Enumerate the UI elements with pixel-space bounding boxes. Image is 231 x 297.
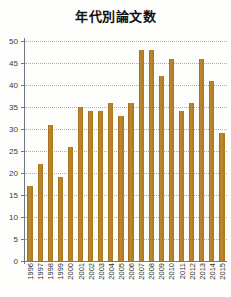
bar-slot[interactable]	[68, 41, 73, 261]
x-axis-tick-label: 2002	[86, 263, 95, 280]
x-axis-tick: 2011	[177, 262, 187, 296]
bar-slot[interactable]	[58, 41, 63, 261]
y-axis-tick-mark	[21, 217, 24, 218]
x-axis-tick-label: 2006	[127, 263, 136, 280]
bar-slot[interactable]	[48, 41, 53, 261]
y-axis-tick-label: 40	[9, 81, 18, 90]
x-axis-tick: 2015	[217, 262, 227, 296]
x-axis-tick-label: 2015	[217, 263, 226, 280]
bar[interactable]	[38, 164, 43, 261]
bar-slot[interactable]	[149, 41, 154, 261]
x-axis-tick-label: 2009	[157, 263, 166, 280]
chart-title: 年代別論文数	[0, 6, 231, 25]
bar[interactable]	[108, 103, 113, 261]
bar-slot[interactable]	[98, 41, 103, 261]
y-axis-tick-mark	[21, 195, 24, 196]
bar[interactable]	[78, 107, 83, 261]
y-axis-tick-label: 30	[9, 125, 18, 134]
x-axis-tick: 2002	[86, 262, 96, 296]
bar-slot[interactable]	[189, 41, 194, 261]
bar[interactable]	[98, 111, 103, 261]
y-axis-tick-label: 0	[14, 257, 18, 266]
y-axis-tick-label: 25	[9, 147, 18, 156]
bar-slot[interactable]	[199, 41, 204, 261]
x-axis-tick: 2009	[156, 262, 166, 296]
bar[interactable]	[199, 59, 204, 261]
bar[interactable]	[128, 103, 133, 261]
x-axis-tick: 2001	[76, 262, 86, 296]
bar-slot[interactable]	[169, 41, 174, 261]
x-axis-tick-label: 1998	[46, 263, 55, 280]
y-axis-tick-label: 35	[9, 103, 18, 112]
x-axis-tick-label: 2001	[76, 263, 85, 280]
bar[interactable]	[219, 133, 224, 261]
bar-slot[interactable]	[128, 41, 133, 261]
x-axis-tick: 1996	[25, 262, 35, 296]
bar-slot[interactable]	[219, 41, 224, 261]
y-axis-tick-labels: 05101520253035404550	[0, 41, 22, 261]
y-axis-tick-mark	[21, 151, 24, 152]
bar[interactable]	[48, 125, 53, 261]
bar[interactable]	[88, 111, 93, 261]
x-axis-tick-label: 1996	[26, 263, 35, 280]
x-axis-tick-label: 2014	[207, 263, 216, 280]
x-axis-tick-label: 2003	[96, 263, 105, 280]
y-axis-tick-label: 15	[9, 191, 18, 200]
x-axis-tick-label: 2013	[197, 263, 206, 280]
bar[interactable]	[169, 59, 174, 261]
x-axis-tick: 2012	[187, 262, 197, 296]
bar[interactable]	[179, 111, 184, 261]
bar[interactable]	[27, 186, 32, 261]
bar-slot[interactable]	[27, 41, 32, 261]
y-axis-tick-label: 5	[14, 235, 18, 244]
x-axis-tick-label: 2005	[116, 263, 125, 280]
y-axis-tick-mark	[21, 261, 24, 262]
bar[interactable]	[189, 103, 194, 261]
x-axis-tick: 2010	[166, 262, 176, 296]
bar[interactable]	[209, 81, 214, 261]
y-axis-tick-label: 10	[9, 213, 18, 222]
bar-slot[interactable]	[159, 41, 164, 261]
x-axis-tick-label: 2012	[187, 263, 196, 280]
chart-figure: 年代別論文数 05101520253035404550 199619971998…	[0, 0, 231, 297]
y-axis-tick-label: 20	[9, 169, 18, 178]
bar[interactable]	[118, 116, 123, 261]
bar-slot[interactable]	[88, 41, 93, 261]
x-axis-tick-label: 1999	[56, 263, 65, 280]
x-axis-tick: 2003	[96, 262, 106, 296]
bar[interactable]	[159, 76, 164, 261]
bar[interactable]	[139, 50, 144, 261]
x-axis-tick-label: 2007	[137, 263, 146, 280]
bar-slot[interactable]	[38, 41, 43, 261]
bar[interactable]	[149, 50, 154, 261]
bar-slot[interactable]	[78, 41, 83, 261]
y-axis-tick-mark	[21, 129, 24, 130]
x-axis-tick: 2007	[136, 262, 146, 296]
y-axis-tick-mark	[21, 85, 24, 86]
x-axis-tick-label: 2008	[147, 263, 156, 280]
bar-slot[interactable]	[179, 41, 184, 261]
bar[interactable]	[58, 177, 63, 261]
y-axis-tick-mark	[21, 63, 24, 64]
bar-slot[interactable]	[118, 41, 123, 261]
bar-slot[interactable]	[108, 41, 113, 261]
x-axis-tick-label: 1997	[36, 263, 45, 280]
plot-area	[25, 41, 227, 261]
bar-slot[interactable]	[139, 41, 144, 261]
x-axis-tick-labels: 1996199719981999200020012002200320042005…	[25, 262, 227, 296]
bar-series	[25, 41, 227, 261]
x-axis-tick: 2004	[106, 262, 116, 296]
x-axis-tick: 1999	[55, 262, 65, 296]
x-axis-tick: 2000	[65, 262, 75, 296]
bar[interactable]	[68, 147, 73, 261]
x-axis-tick-label: 2004	[106, 263, 115, 280]
bar-slot[interactable]	[209, 41, 214, 261]
y-axis-tick-label: 50	[9, 37, 18, 46]
x-axis-tick: 2008	[146, 262, 156, 296]
x-axis-tick-label: 2010	[167, 263, 176, 280]
x-axis-tick: 2013	[197, 262, 207, 296]
x-axis-tick: 2006	[126, 262, 136, 296]
x-axis-tick: 2014	[207, 262, 217, 296]
y-axis-tick-mark	[21, 41, 24, 42]
x-axis-tick-label: 2000	[66, 263, 75, 280]
